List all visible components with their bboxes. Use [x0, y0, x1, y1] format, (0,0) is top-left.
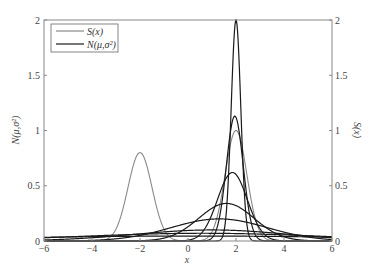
x-tick-label: 0	[186, 243, 191, 254]
left-y-tick-label: 0	[35, 236, 40, 247]
chart: −6−4−2024600.511.5200.511.52 x N(μ,σ²) S…	[0, 0, 371, 270]
x-axis-label: x	[184, 254, 190, 265]
plot-frame	[44, 20, 332, 241]
x-tick-label: −4	[87, 243, 98, 254]
left-y-tick-label: 0.5	[28, 180, 41, 191]
right-y-tick-label: 1	[335, 125, 340, 136]
target-distribution-curve	[44, 131, 332, 242]
left-y-tick-label: 1.5	[28, 70, 41, 81]
right-y-axis-label: S(x)	[351, 122, 363, 139]
right-y-tick-label: 0	[335, 236, 340, 247]
legend: S(x) N(μ,σ²)	[51, 24, 118, 52]
legend-label-n: N(μ,σ²)	[86, 39, 116, 51]
plot-curves	[44, 20, 332, 241]
x-tick-label: 4	[282, 243, 287, 254]
x-tick-label: −2	[135, 243, 146, 254]
legend-label-s: S(x)	[87, 26, 104, 38]
gaussian-curve-6	[44, 116, 332, 241]
x-tick-label: 2	[234, 243, 239, 254]
x-tick-label: 6	[330, 243, 335, 254]
gaussian-curve-7	[44, 20, 332, 241]
left-y-tick-label: 1	[35, 125, 40, 136]
x-tick-label: −6	[39, 243, 50, 254]
right-y-tick-label: 0.5	[335, 180, 348, 191]
right-y-tick-label: 2	[335, 15, 340, 26]
right-y-tick-label: 1.5	[335, 70, 348, 81]
left-y-axis-label: N(μ,σ²)	[10, 115, 22, 145]
left-y-tick-label: 2	[35, 15, 40, 26]
